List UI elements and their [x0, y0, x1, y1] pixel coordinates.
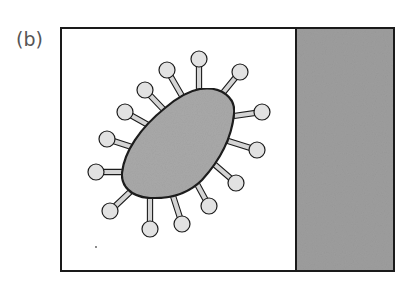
spike-ball [249, 142, 265, 158]
side-panel [296, 28, 394, 271]
spike-ball [99, 131, 115, 147]
spike-ball [232, 64, 248, 80]
spike-ball [88, 164, 104, 180]
virus-body [122, 89, 234, 199]
speck [95, 246, 97, 248]
spike-ball [137, 82, 153, 98]
spike-ball [191, 51, 207, 67]
spike-ball [201, 198, 217, 214]
spike-ball [228, 175, 244, 191]
spike-ball [159, 62, 175, 78]
virus-diagram [0, 0, 406, 281]
spike-ball [142, 221, 158, 237]
spike-ball [117, 104, 133, 120]
spike-ball [102, 203, 118, 219]
spike-ball [174, 216, 190, 232]
spike-ball [254, 104, 270, 120]
